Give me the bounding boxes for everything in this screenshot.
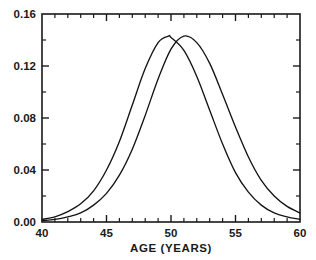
y-tick-label: 0.00 <box>14 216 36 228</box>
x-axis-title: AGE (YEARS) <box>130 242 212 254</box>
chart-figure: 4045505560 0.000.040.080.120.16 AGE (YEA… <box>0 0 316 260</box>
y-tick-label: 0.04 <box>14 164 37 176</box>
x-tick-label: 50 <box>165 227 178 239</box>
y-tick-label: 0.16 <box>14 8 36 20</box>
y-tick-label: 0.08 <box>14 112 37 124</box>
y-tick-label: 0.12 <box>14 60 36 72</box>
x-tick-label: 40 <box>36 227 49 239</box>
line-chart: 4045505560 0.000.040.080.120.16 AGE (YEA… <box>0 0 316 260</box>
x-tick-label: 60 <box>294 227 307 239</box>
x-tick-label: 45 <box>100 227 113 239</box>
x-tick-label: 55 <box>229 227 242 239</box>
